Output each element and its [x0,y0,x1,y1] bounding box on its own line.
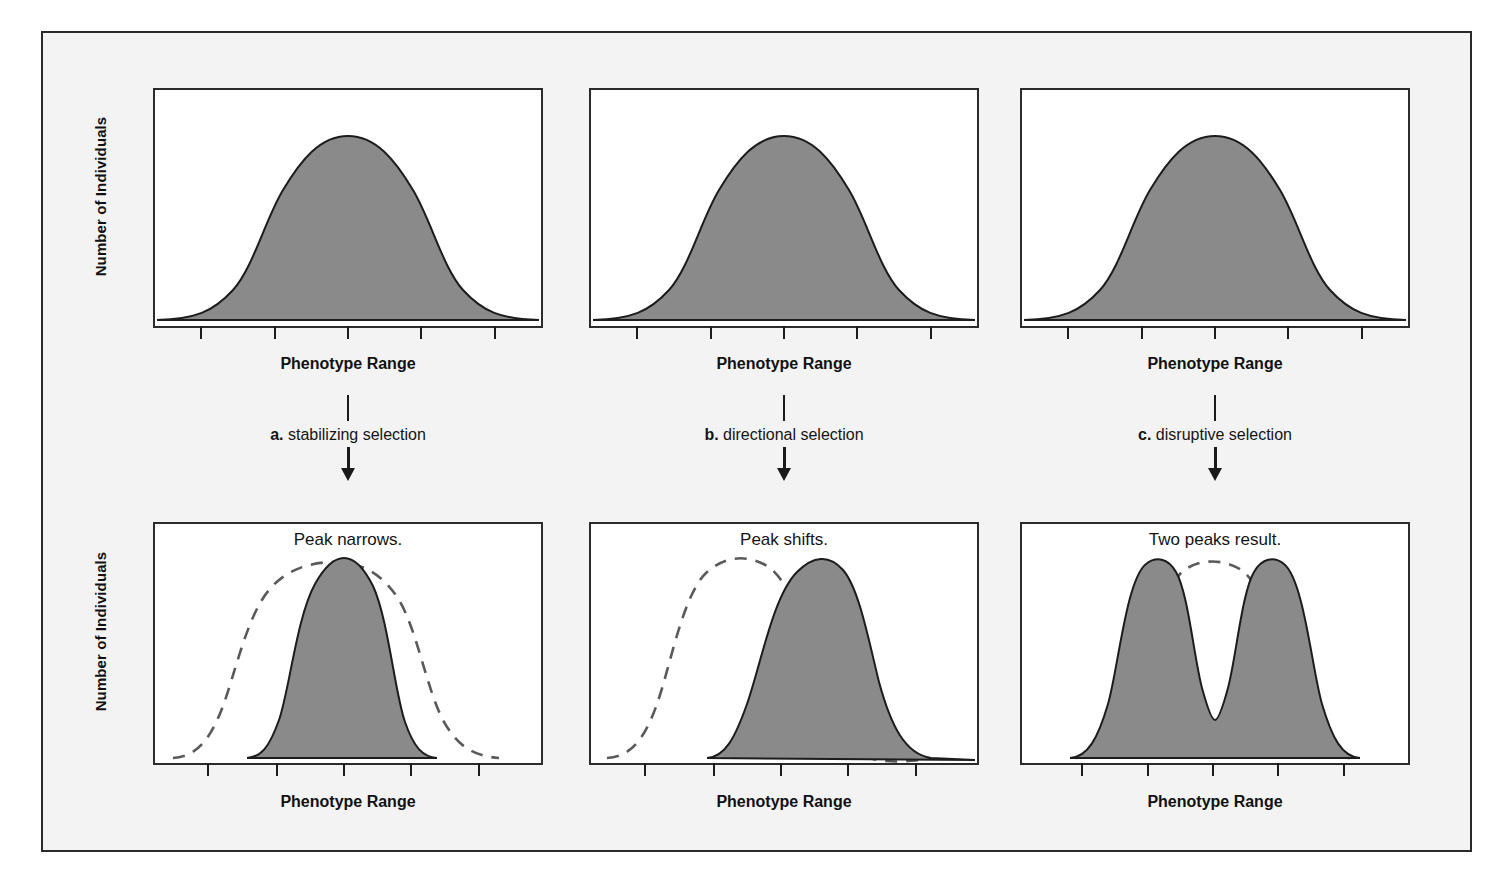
x-ticks-before-a [153,326,543,342]
x-ticks-after-c [1020,763,1410,779]
connector-stem-c [1214,395,1216,421]
connector-stabilizing: a. stabilizing selection [168,395,528,481]
selection-label-b: b. directional selection [604,421,964,447]
connector-arrow-b [604,447,964,481]
curve-after-a [247,558,437,758]
chart-panel-after-b: Peak shifts. [589,522,979,765]
chart-svg-after-b [591,524,977,763]
connector-stem-b [783,395,785,421]
selection-label-a: a. stabilizing selection [168,421,528,447]
connector-arrow-c [1035,447,1395,481]
curve-after-c [1070,559,1360,758]
curve-before-b [593,136,975,320]
arrow-head-a [341,468,355,481]
y-axis-label-top: Number of Individuals [92,97,109,297]
x-ticks-before-c [1020,326,1410,342]
chart-panel-after-c: Two peaks result. [1020,522,1410,765]
x-axis-label-after-b: Phenotype Range [589,793,979,811]
connector-directional: b. directional selection [604,395,964,481]
chart-svg-before-b [591,90,977,326]
curve-before-a [157,136,539,320]
y-axis-label-bottom: Number of Individuals [92,532,109,732]
arrow-head-c [1208,468,1222,481]
selection-marker-a: a. [270,426,283,443]
selection-marker-b: b. [704,426,718,443]
connector-arrow-a [168,447,528,481]
chart-panel-before-a [153,88,543,328]
chart-svg-before-a [155,90,541,326]
selection-marker-c: c. [1138,426,1151,443]
x-ticks-after-a [153,763,543,779]
chart-panel-before-b [589,88,979,328]
x-axis-label-after-c: Phenotype Range [1020,793,1410,811]
selection-text-c: disruptive selection [1156,426,1292,443]
selection-label-c: c. disruptive selection [1035,421,1395,447]
selection-text-a: stabilizing selection [288,426,426,443]
figure-frame: Number of Individuals Phenotype Range [41,31,1472,852]
x-axis-label-before-c: Phenotype Range [1020,355,1410,373]
x-axis-label-before-b: Phenotype Range [589,355,979,373]
chart-svg-after-a [155,524,541,763]
x-ticks-after-b [589,763,979,779]
x-axis-label-after-a: Phenotype Range [153,793,543,811]
connector-stem-a [347,395,349,421]
arrow-head-b [777,468,791,481]
selection-text-b: directional selection [723,426,864,443]
figure-root: Number of Individuals Phenotype Range [0,0,1504,875]
x-ticks-before-b [589,326,979,342]
chart-svg-after-c [1022,524,1408,763]
chart-panel-after-a: Peak narrows. [153,522,543,765]
chart-panel-before-c [1020,88,1410,328]
connector-disruptive: c. disruptive selection [1035,395,1395,481]
x-axis-label-before-a: Phenotype Range [153,355,543,373]
chart-svg-before-c [1022,90,1408,326]
curve-after-b [707,559,975,760]
curve-before-c [1024,136,1406,320]
